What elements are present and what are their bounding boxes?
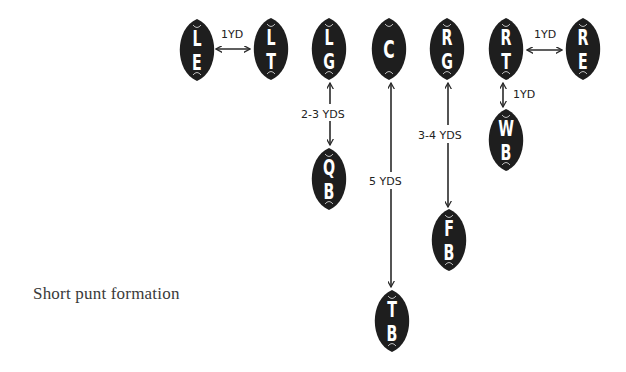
player-letter: Q: [323, 154, 335, 180]
player-letter: G: [323, 48, 335, 74]
player-wb: WB: [489, 109, 523, 171]
player-letter: R: [578, 24, 589, 50]
player-lg: LG: [312, 18, 346, 80]
player-letter: B: [324, 178, 335, 204]
player-letter: B: [501, 139, 512, 165]
player-c: C: [372, 18, 406, 80]
player-letter: E: [192, 49, 202, 75]
player-re: RE: [566, 18, 600, 80]
player-letter: R: [501, 24, 512, 50]
label-rt-re: 1YD: [534, 28, 556, 41]
player-letter: L: [324, 24, 333, 50]
figure-caption: Short punt formation: [33, 284, 180, 304]
player-letter: W: [498, 115, 514, 141]
player-letter: T: [387, 296, 397, 322]
formation-diagram: 1YD 1YD 1YD 2-3 YDS 5 YDS 3-4 YDS LELTLG…: [0, 0, 626, 372]
player-le: LE: [180, 19, 214, 81]
player-letter: F: [444, 215, 454, 241]
player-letter: E: [578, 48, 588, 74]
player-tb: TB: [375, 290, 409, 352]
label-rt-wb: 1YD: [513, 88, 535, 101]
player-qb: QB: [312, 148, 346, 210]
player-fb: FB: [432, 209, 466, 271]
label-rg-fb: 3-4 YDS: [418, 129, 462, 142]
player-lt: LT: [254, 18, 288, 80]
player-rg: RG: [430, 18, 464, 80]
label-le-lt: 1YD: [221, 28, 243, 41]
player-letter: B: [387, 320, 398, 346]
player-rt: RT: [489, 18, 523, 80]
label-c-tb: 5 YDS: [369, 175, 402, 188]
player-letter: L: [192, 25, 201, 51]
player-letter: T: [501, 48, 511, 74]
player-letter: R: [442, 24, 453, 50]
player-letter: C: [383, 36, 394, 64]
player-letter: L: [266, 24, 275, 50]
label-lg-qb: 2-3 YDS: [301, 108, 345, 121]
player-letter: G: [441, 48, 453, 74]
player-letter: B: [444, 239, 455, 265]
player-letter: T: [266, 48, 276, 74]
